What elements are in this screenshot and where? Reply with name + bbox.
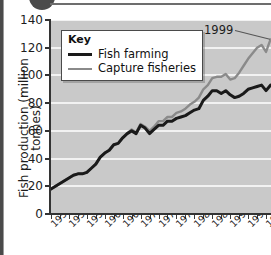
series-line-fish-farming: [51, 85, 271, 189]
y-tick-label: 100: [3, 69, 43, 81]
legend-label-capture-fisheries: Capture fisheries: [98, 62, 196, 75]
legend-label-fish-farming: Fish farming: [98, 48, 169, 61]
fish-production-chart: Fish production (million tonnes) 0204060…: [0, 0, 271, 255]
y-tick-label: 20: [3, 180, 43, 192]
y-tick-label: 140: [3, 14, 43, 26]
legend-title: Key: [68, 34, 196, 46]
y-tick-label: 40: [3, 153, 43, 165]
annotation-1999: 1999: [204, 23, 233, 37]
legend-item-capture-fisheries: Capture fisheries: [68, 62, 196, 75]
chart-page: Fish production (million tonnes) 0204060…: [0, 0, 271, 255]
y-tick-label: 80: [3, 97, 43, 109]
y-tick-label: 60: [3, 125, 43, 137]
y-axis-line: [49, 19, 51, 215]
legend-swatch-fish-farming: [68, 53, 92, 56]
y-tick-label: 0: [3, 208, 43, 220]
legend-swatch-capture-fisheries: [68, 68, 92, 70]
y-tick-label: 120: [3, 42, 43, 54]
chart-legend: Key Fish farming Capture fisheries: [61, 30, 203, 81]
legend-item-fish-farming: Fish farming: [68, 48, 196, 61]
x-axis-line: [49, 213, 271, 215]
